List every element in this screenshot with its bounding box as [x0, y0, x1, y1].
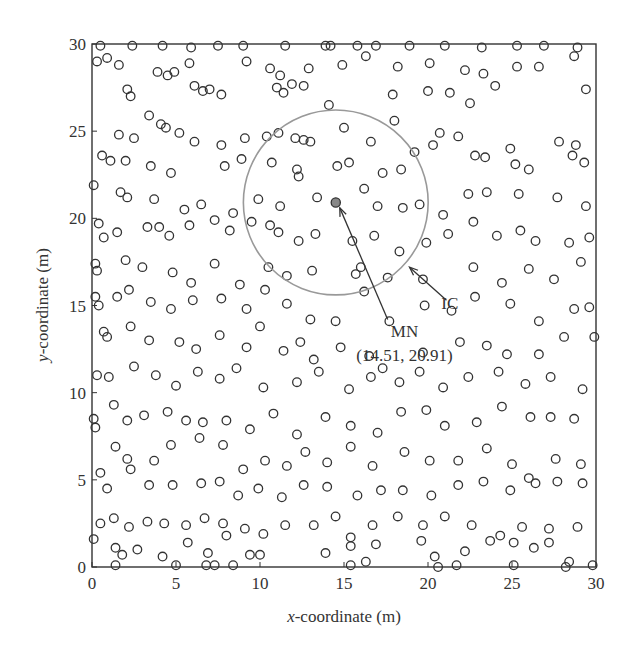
node-marker: [232, 364, 241, 373]
node-marker: [242, 57, 251, 66]
node-marker: [585, 303, 594, 312]
node-marker: [121, 256, 130, 265]
node-marker: [254, 484, 263, 493]
node-marker: [513, 62, 522, 71]
node-marker: [360, 184, 369, 193]
y-tick-label: 5: [78, 471, 87, 490]
node-marker: [456, 338, 465, 347]
node-marker: [110, 514, 119, 523]
node-marker: [121, 157, 130, 166]
node-marker: [182, 416, 191, 425]
node-marker: [353, 41, 362, 50]
node-marker: [346, 442, 355, 451]
node-marker: [400, 448, 409, 457]
node-marker: [439, 383, 448, 392]
node-marker: [288, 80, 297, 89]
node-marker: [560, 333, 569, 342]
node-marker: [309, 355, 318, 364]
node-marker: [570, 52, 579, 61]
node-marker: [321, 41, 330, 50]
x-tick-label: 5: [172, 574, 181, 593]
node-marker: [323, 483, 332, 492]
node-marker: [469, 218, 478, 227]
node-marker: [471, 151, 480, 160]
node-marker: [452, 561, 461, 570]
node-marker: [373, 428, 382, 437]
node-marker: [130, 362, 139, 371]
node-marker: [461, 66, 470, 75]
node-marker: [103, 54, 112, 63]
node-marker: [202, 561, 211, 570]
node-marker: [493, 231, 502, 240]
node-marker: [215, 331, 224, 340]
node-marker: [430, 552, 439, 561]
node-marker: [315, 367, 324, 376]
node-marker: [106, 157, 115, 166]
node-marker: [158, 41, 167, 50]
node-marker: [145, 481, 154, 490]
mobile-node-mn-marker: [331, 198, 340, 207]
node-marker: [143, 223, 152, 232]
node-marker: [425, 456, 434, 465]
annotation-arrows: [340, 208, 447, 320]
scatter-chart: 051015202530051015202530 MN(14.51, 20.91…: [0, 0, 633, 653]
node-marker: [531, 479, 540, 488]
node-marker: [417, 537, 426, 546]
node-marker: [491, 82, 500, 91]
node-marker: [229, 561, 238, 570]
node-marker: [511, 160, 520, 169]
node-marker: [590, 333, 599, 342]
node-marker: [368, 521, 377, 530]
node-marker: [481, 153, 490, 162]
node-marker: [429, 141, 438, 150]
node-marker: [545, 524, 554, 533]
y-tick-label: 0: [78, 558, 87, 577]
node-marker: [168, 268, 177, 277]
axis-ticks: 051015202530051015202530: [69, 35, 605, 593]
node-marker: [513, 41, 522, 50]
node-marker: [395, 378, 404, 387]
node-marker: [194, 367, 203, 376]
node-marker: [367, 373, 376, 382]
node-marker: [241, 524, 250, 533]
node-marker: [323, 458, 332, 467]
node-marker: [234, 491, 243, 500]
node-marker: [93, 57, 102, 66]
y-tick-label: 15: [69, 297, 86, 316]
node-marker: [441, 41, 450, 50]
node-marker: [281, 41, 290, 50]
node-marker: [472, 418, 481, 427]
node-marker: [197, 200, 206, 209]
node-marker: [483, 341, 492, 350]
node-marker: [293, 430, 302, 439]
node-marker: [279, 347, 288, 356]
node-marker: [405, 41, 414, 50]
node-marker: [111, 544, 120, 553]
node-marker: [580, 158, 589, 167]
node-marker: [577, 258, 586, 267]
node-marker: [308, 266, 317, 275]
node-marker: [466, 99, 475, 108]
node-marker: [420, 301, 429, 310]
node-marker: [247, 218, 256, 227]
node-marker: [494, 367, 503, 376]
node-marker: [197, 479, 206, 488]
node-marker: [338, 61, 347, 70]
node-marker: [293, 378, 302, 387]
node-marker: [498, 279, 507, 288]
node-marker: [397, 165, 406, 174]
node-marker: [192, 345, 201, 354]
node-marker: [346, 542, 355, 551]
node-marker: [294, 237, 303, 246]
node-marker: [393, 512, 402, 521]
node-marker: [283, 299, 292, 308]
node-marker: [296, 338, 305, 347]
node-marker: [483, 444, 492, 453]
node-marker: [115, 130, 124, 139]
node-marker: [422, 406, 431, 415]
node-marker: [152, 371, 161, 380]
node-marker: [276, 202, 285, 211]
node-marker: [467, 521, 476, 530]
node-marker: [313, 193, 322, 202]
node-marker: [321, 549, 330, 558]
